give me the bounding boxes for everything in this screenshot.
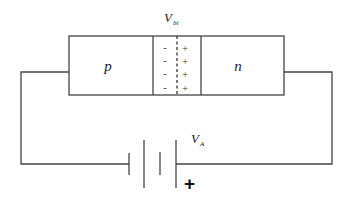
positive-charge: +	[182, 56, 188, 67]
negative-charge: -	[163, 55, 166, 66]
positive-charges: + + + +	[182, 43, 188, 94]
applied-voltage-label: V A	[191, 131, 205, 148]
positive-charge: +	[182, 43, 188, 54]
negative-charge: -	[163, 42, 166, 53]
negative-charges: - - - -	[163, 42, 166, 93]
battery-positive-sign: +	[184, 173, 195, 194]
battery-icon	[129, 140, 176, 188]
pn-junction-diagram: p n - - - - + + + + V bi V A +	[0, 0, 349, 200]
p-region-label: p	[103, 58, 112, 74]
positive-charge: +	[182, 83, 188, 94]
builtin-voltage-label: V bi	[164, 10, 179, 27]
left-wire	[21, 72, 129, 164]
right-wire	[176, 72, 332, 164]
svg-text:bi: bi	[173, 19, 179, 27]
negative-charge: -	[163, 68, 166, 79]
positive-charge: +	[182, 69, 188, 80]
svg-text:A: A	[199, 140, 205, 148]
n-region-label: n	[234, 58, 242, 74]
negative-charge: -	[163, 82, 166, 93]
